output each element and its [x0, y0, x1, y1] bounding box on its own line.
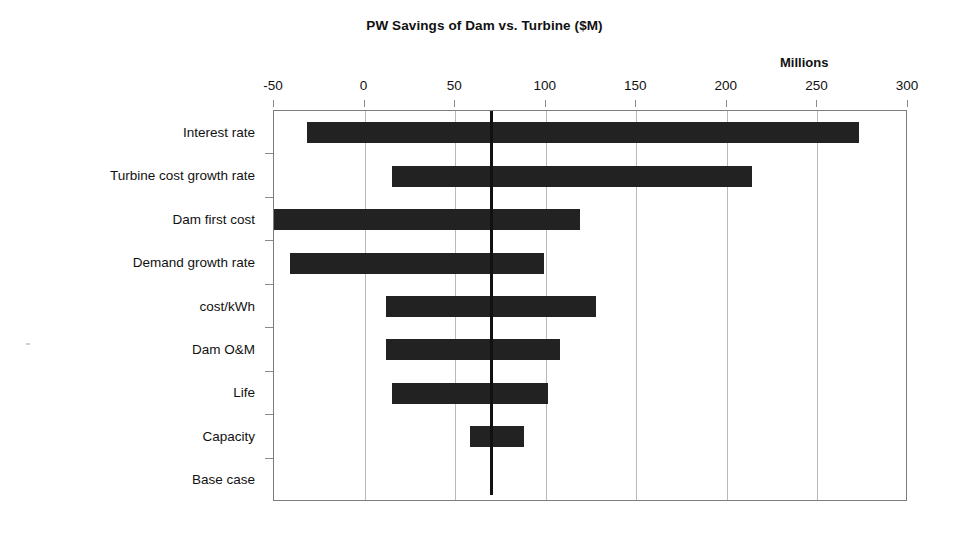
base-case-reference-line: [490, 111, 493, 495]
x-tick-label-1: 0: [360, 78, 368, 93]
x-tick-mark-6: [816, 100, 817, 107]
y-category-label-3: Demand growth rate: [133, 255, 255, 270]
y-category-label-5: Dam O&M: [192, 341, 255, 356]
y-tick-mark-5: [265, 327, 273, 328]
y-tick-mark-8: [265, 458, 273, 459]
y-category-label-0: Interest rate: [183, 124, 255, 139]
x-tick-label-2: 50: [447, 78, 462, 93]
chart-title: PW Savings of Dam vs. Turbine ($M): [0, 18, 969, 33]
tornado-bar-2: [274, 209, 580, 230]
x-tick-mark-5: [726, 100, 727, 107]
y-category-label-4: cost/kWh: [199, 298, 255, 313]
units-label: Millions: [780, 55, 828, 70]
y-tick-mark-3: [265, 240, 273, 241]
x-tick-label-0: -50: [263, 78, 283, 93]
y-tick-mark-1: [265, 153, 273, 154]
tornado-bar-5: [386, 339, 560, 360]
y-category-label-2: Dam first cost: [172, 211, 255, 226]
x-tick-mark-7: [907, 100, 908, 107]
x-tick-mark-1: [364, 100, 365, 107]
tornado-bar-7: [470, 426, 524, 447]
x-tick-mark-0: [273, 100, 274, 107]
gridline-0: [365, 111, 366, 500]
x-tick-label-7: 300: [896, 78, 919, 93]
scan-artifact-speck: [26, 343, 30, 345]
tornado-bar-0: [307, 122, 859, 143]
y-category-label-7: Capacity: [202, 428, 255, 443]
y-category-label-1: Turbine cost growth rate: [110, 168, 255, 183]
tornado-bar-6: [392, 383, 548, 404]
y-tick-mark-4: [265, 284, 273, 285]
x-axis-tick-marks: [0, 100, 969, 108]
tornado-bar-3: [290, 253, 544, 274]
x-tick-label-4: 150: [624, 78, 647, 93]
y-axis-category-labels: Interest rateTurbine cost growth rateDam…: [0, 110, 265, 501]
y-tick-mark-2: [265, 197, 273, 198]
x-tick-mark-2: [454, 100, 455, 107]
plot-area: [273, 110, 907, 501]
x-tick-mark-4: [635, 100, 636, 107]
x-tick-label-6: 250: [805, 78, 828, 93]
y-category-label-8: Base case: [192, 472, 255, 487]
gridline-250: [817, 111, 818, 500]
x-axis-tick-labels: -50050100150200250300: [0, 78, 969, 98]
y-category-label-6: Life: [233, 385, 255, 400]
tornado-bar-1: [392, 166, 752, 187]
x-tick-label-5: 200: [715, 78, 738, 93]
x-tick-mark-3: [545, 100, 546, 107]
x-tick-label-3: 100: [533, 78, 556, 93]
y-tick-mark-7: [265, 414, 273, 415]
y-tick-mark-6: [265, 371, 273, 372]
